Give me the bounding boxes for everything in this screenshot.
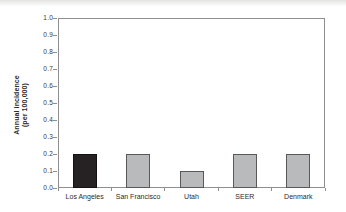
- y-tick: [53, 154, 57, 155]
- x-tick: [271, 188, 272, 191]
- y-tick-label: 0.8: [29, 48, 53, 56]
- y-tick: [53, 171, 57, 172]
- x-category-label: Denmark: [258, 192, 338, 201]
- plot-area: [58, 18, 325, 188]
- y-tick: [53, 188, 57, 189]
- y-tick-label: 0.1: [29, 167, 53, 175]
- x-tick: [325, 188, 326, 191]
- bar: [180, 171, 204, 188]
- x-tick: [58, 188, 59, 191]
- y-tick: [53, 18, 57, 19]
- bar: [233, 154, 257, 188]
- x-tick: [111, 188, 112, 191]
- scan-artifact-band: [0, 0, 346, 6]
- x-tick: [164, 188, 165, 191]
- bar-chart-figure: Annual incidence (per 100,000) 0.00.10.2…: [0, 0, 346, 212]
- y-tick: [53, 52, 57, 53]
- y-tick: [53, 86, 57, 87]
- y-tick-label: 0.4: [29, 116, 53, 124]
- x-tick: [218, 188, 219, 191]
- bar: [126, 154, 150, 188]
- y-tick-label: 0.7: [29, 65, 53, 73]
- y-tick: [53, 137, 57, 138]
- y-tick: [53, 120, 57, 121]
- y-axis-title-line1: Annual incidence: [13, 40, 21, 170]
- y-axis-title: Annual incidence (per 100,000): [13, 40, 29, 170]
- y-tick: [53, 35, 57, 36]
- y-tick: [53, 103, 57, 104]
- y-tick-label: 0.9: [29, 31, 53, 39]
- y-axis-title-line2: (per 100,000): [21, 40, 29, 170]
- bar: [286, 154, 310, 188]
- y-tick-label: 0.5: [29, 99, 53, 107]
- y-tick: [53, 69, 57, 70]
- y-tick-label: 0.0: [29, 184, 53, 192]
- y-tick-label: 0.2: [29, 150, 53, 158]
- bar: [73, 154, 97, 188]
- y-tick-label: 0.6: [29, 82, 53, 90]
- y-tick-label: 1.0: [29, 14, 53, 22]
- y-tick-label: 0.3: [29, 133, 53, 141]
